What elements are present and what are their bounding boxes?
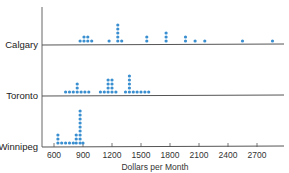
category-label-toronto: Toronto bbox=[6, 90, 38, 101]
data-dot-winnipeg bbox=[79, 109, 82, 112]
data-dot-winnipeg bbox=[56, 133, 59, 136]
data-dot-toronto bbox=[103, 90, 106, 93]
data-dot-toronto bbox=[124, 90, 127, 93]
data-dot-winnipeg bbox=[68, 141, 71, 144]
x-tick-label: 900 bbox=[76, 150, 90, 160]
data-dot-calgary bbox=[203, 39, 206, 42]
data-dot-winnipeg bbox=[60, 141, 63, 144]
data-dot-toronto bbox=[110, 82, 113, 85]
data-dot-toronto bbox=[76, 90, 79, 93]
data-dot-toronto bbox=[110, 78, 113, 81]
data-dot-calgary bbox=[194, 39, 197, 42]
data-dot-winnipeg bbox=[79, 117, 82, 120]
data-dot-winnipeg bbox=[75, 141, 78, 144]
data-dot-winnipeg bbox=[56, 137, 59, 140]
data-dot-toronto bbox=[76, 82, 79, 85]
category-labels: Calgary Toronto Winnipeg bbox=[0, 39, 38, 152]
data-dot-toronto bbox=[110, 90, 113, 93]
data-dot-toronto bbox=[110, 86, 113, 89]
data-dot-winnipeg bbox=[79, 125, 82, 128]
data-dot-winnipeg bbox=[56, 141, 59, 144]
data-dot-winnipeg bbox=[75, 137, 78, 140]
data-dot-toronto bbox=[128, 86, 131, 89]
data-dot-toronto bbox=[87, 90, 90, 93]
data-dot-winnipeg bbox=[79, 141, 82, 144]
calgary-baseline bbox=[42, 44, 284, 45]
data-dot-calgary bbox=[82, 35, 85, 38]
data-dot-toronto bbox=[107, 82, 110, 85]
data-dot-calgary bbox=[145, 35, 148, 38]
data-dot-toronto bbox=[107, 78, 110, 81]
toronto-baseline bbox=[42, 95, 284, 96]
data-dot-toronto bbox=[76, 86, 79, 89]
data-dot-toronto bbox=[136, 90, 139, 93]
dot-plot-chart: Calgary Toronto Winnipeg 600900120015001… bbox=[0, 0, 289, 173]
data-dot-calgary bbox=[116, 35, 119, 38]
data-dot-winnipeg bbox=[81, 141, 84, 144]
category-baselines bbox=[42, 44, 284, 147]
data-dot-calgary bbox=[90, 39, 93, 42]
category-label-winnipeg: Winnipeg bbox=[0, 141, 38, 152]
data-dot-toronto bbox=[68, 90, 71, 93]
data-dot-calgary bbox=[241, 39, 244, 42]
data-dot-toronto bbox=[114, 90, 117, 93]
data-dot-toronto bbox=[128, 82, 131, 85]
x-axis bbox=[42, 146, 284, 147]
data-dot-winnipeg bbox=[79, 129, 82, 132]
data-dots bbox=[56, 23, 274, 144]
data-dot-winnipeg bbox=[75, 133, 78, 136]
x-axis-title: Dollars per Month bbox=[121, 162, 188, 172]
data-dot-toronto bbox=[139, 90, 142, 93]
data-dot-calgary bbox=[120, 39, 123, 42]
data-dot-toronto bbox=[107, 90, 110, 93]
data-dot-toronto bbox=[99, 90, 102, 93]
data-dot-calgary bbox=[165, 35, 168, 38]
x-tick-label: 2400 bbox=[219, 150, 238, 160]
data-dot-calgary bbox=[82, 39, 85, 42]
data-dot-calgary bbox=[271, 39, 274, 42]
data-dot-toronto bbox=[132, 90, 135, 93]
x-axis-ticks: 600900120015001800210024002700 bbox=[47, 143, 267, 160]
data-dot-calgary bbox=[86, 39, 89, 42]
x-tick-label: 1200 bbox=[103, 150, 122, 160]
data-dot-calgary bbox=[184, 35, 187, 38]
data-dot-toronto bbox=[72, 90, 75, 93]
data-dot-toronto bbox=[128, 74, 131, 77]
data-dot-toronto bbox=[80, 90, 83, 93]
data-dot-winnipeg bbox=[79, 121, 82, 124]
data-dot-calgary bbox=[116, 39, 119, 42]
data-dot-calgary bbox=[108, 39, 111, 42]
data-dot-winnipeg bbox=[72, 141, 75, 144]
data-dot-calgary bbox=[79, 39, 82, 42]
data-dot-toronto bbox=[128, 90, 131, 93]
data-dot-winnipeg bbox=[79, 133, 82, 136]
data-dot-winnipeg bbox=[79, 113, 82, 116]
x-tick-label: 1800 bbox=[161, 150, 180, 160]
x-tick-label: 1500 bbox=[132, 150, 151, 160]
x-tick-label: 2700 bbox=[248, 150, 267, 160]
data-dot-toronto bbox=[107, 86, 110, 89]
data-dot-toronto bbox=[83, 90, 86, 93]
data-dot-calgary bbox=[165, 31, 168, 34]
x-tick-label: 600 bbox=[47, 150, 61, 160]
data-dot-calgary bbox=[145, 39, 148, 42]
x-tick-label: 2100 bbox=[190, 150, 209, 160]
category-label-calgary: Calgary bbox=[5, 39, 38, 50]
data-dot-calgary bbox=[116, 27, 119, 30]
data-dot-winnipeg bbox=[79, 137, 82, 140]
data-dot-toronto bbox=[128, 78, 131, 81]
data-dot-calgary bbox=[116, 31, 119, 34]
data-dot-toronto bbox=[143, 90, 146, 93]
data-dot-calgary bbox=[116, 23, 119, 26]
data-dot-toronto bbox=[64, 90, 67, 93]
data-dot-calgary bbox=[86, 35, 89, 38]
data-dot-calgary bbox=[165, 39, 168, 42]
data-dot-calgary bbox=[184, 39, 187, 42]
data-dot-toronto bbox=[147, 90, 150, 93]
data-dot-winnipeg bbox=[64, 141, 67, 144]
